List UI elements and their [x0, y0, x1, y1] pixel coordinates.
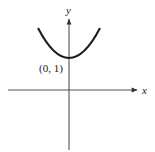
y-axis-label: y: [65, 4, 71, 16]
vertex-label: (0, 1): [39, 62, 63, 75]
x-axis-label: x: [141, 84, 147, 96]
function-graph: x y (0, 1): [0, 0, 155, 152]
